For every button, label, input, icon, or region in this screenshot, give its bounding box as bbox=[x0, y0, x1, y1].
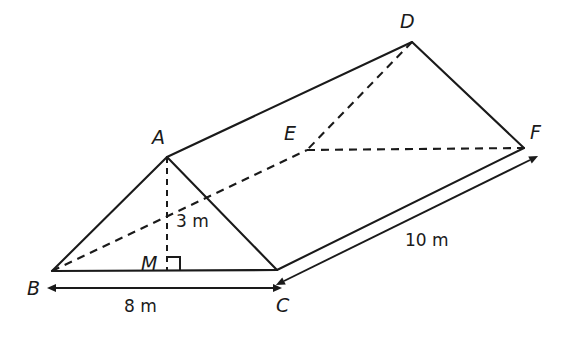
edge-DF bbox=[412, 42, 524, 148]
solid-edges-group bbox=[52, 42, 524, 271]
right-angle-at-M bbox=[167, 257, 180, 270]
dimension-length-CF-label: 10 m bbox=[405, 232, 449, 249]
vertex-label-B: B bbox=[27, 279, 40, 298]
edge-EF bbox=[307, 148, 524, 150]
vertex-label-M: M bbox=[141, 254, 157, 273]
prism-drawing bbox=[0, 0, 564, 337]
hidden-edges-group bbox=[52, 42, 524, 271]
dimension-base-BC-label: 8 m bbox=[124, 298, 157, 315]
right-angle-marker-group bbox=[167, 257, 180, 270]
vertex-label-C: C bbox=[276, 296, 289, 315]
dimension-length-CF bbox=[284, 160, 530, 281]
dimension-height-AM-label: 3 m bbox=[176, 213, 209, 230]
vertex-label-F: F bbox=[530, 123, 541, 142]
edge-BC bbox=[52, 270, 277, 271]
vertex-label-E: E bbox=[284, 124, 296, 143]
vertex-label-D: D bbox=[400, 12, 415, 31]
edge-DE bbox=[307, 42, 412, 150]
vertex-label-A: A bbox=[152, 128, 165, 147]
geometry-figure: ABCDEFM 8 m10 m3 m bbox=[0, 0, 564, 337]
edge-CF bbox=[277, 148, 524, 270]
